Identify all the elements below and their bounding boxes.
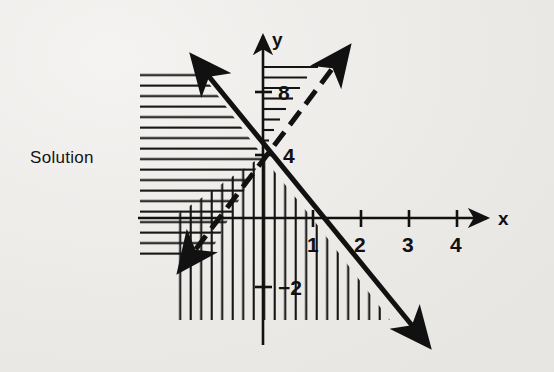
- y-tick-label-minus-2: −2: [278, 276, 302, 299]
- x-tick-label-3: 3: [402, 233, 414, 256]
- x-tick-label-1: 1: [307, 233, 319, 256]
- x-axis-label: x: [498, 208, 509, 229]
- horizontal-hatch-right-stubs: [262, 67, 318, 141]
- x-tick-label-4: 4: [450, 233, 462, 256]
- x-tick-label-2: 2: [354, 233, 366, 256]
- figure-root: Solution: [0, 0, 554, 372]
- y-tick-label-8: 8: [278, 81, 290, 104]
- y-tick-label-4: 4: [283, 144, 295, 167]
- y-axis-label: y: [272, 29, 283, 50]
- inequality-graph: y x 1 2 3 4 8 4 −2: [0, 0, 554, 372]
